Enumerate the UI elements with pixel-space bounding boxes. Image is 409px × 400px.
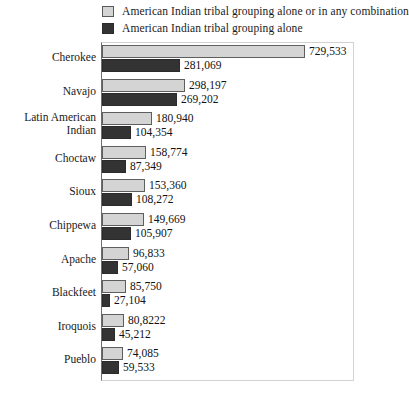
bar-value-label: 149,669 [148, 213, 185, 226]
bar-rows: Cherokee729,533281,069Navajo298,197269,2… [0, 42, 409, 378]
bar-alone: 281,069 [102, 59, 221, 72]
bar-alone: 108,272 [102, 193, 173, 206]
bar-combination: 298,197 [102, 79, 226, 92]
category-label: Navajo [0, 85, 96, 98]
bar-group: Sioux153,360108,272 [0, 176, 409, 210]
category-label: Blackfeet [0, 286, 96, 299]
legend-item-alone: American Indian tribal grouping alone [102, 21, 404, 36]
bar-value-label: 104,354 [135, 126, 172, 139]
bar-value-label: 108,272 [136, 193, 173, 206]
legend-swatch-dark-icon [102, 23, 114, 34]
bar-group: Chippewa149,669105,907 [0, 210, 409, 244]
bar-rect [102, 361, 119, 374]
bar-alone: 59,533 [102, 361, 155, 374]
bar-rect [102, 126, 131, 139]
bar-value-label: 281,069 [184, 59, 221, 72]
bar-value-label: 105,907 [135, 227, 172, 240]
bar-alone: 87,349 [102, 160, 162, 173]
bar-alone: 27,104 [102, 294, 146, 307]
bar-rect [102, 59, 180, 72]
bar-rect [102, 179, 145, 192]
bar-value-label: 96,833 [133, 247, 165, 260]
bar-rect [102, 193, 132, 206]
category-label: Sioux [0, 185, 96, 198]
bar-rect [102, 213, 144, 226]
bar-rect [102, 45, 305, 58]
bar-value-label: 74,085 [127, 347, 159, 360]
bar-combination: 180,940 [102, 112, 193, 125]
bar-rect [102, 79, 185, 92]
bar-value-label: 59,533 [123, 361, 155, 374]
bar-chart: American Indian tribal grouping alone or… [0, 0, 409, 400]
bar-group: Choctaw158,77487,349 [0, 143, 409, 177]
bar-rect [102, 227, 131, 240]
bar-rect [102, 146, 146, 159]
bar-rect [102, 347, 123, 360]
bar-combination: 85,750 [102, 280, 162, 293]
bar-value-label: 158,774 [150, 146, 187, 159]
category-label: Choctaw [0, 152, 96, 165]
bar-rect [102, 328, 115, 341]
legend-label-alone: American Indian tribal grouping alone [122, 22, 303, 35]
bar-rect [102, 93, 177, 106]
bar-combination: 80,8222 [102, 314, 165, 327]
bar-group: Latin American Indian180,940104,354 [0, 109, 409, 143]
bar-combination: 153,360 [102, 179, 186, 192]
bar-alone: 57,060 [102, 261, 154, 274]
bar-alone: 269,202 [102, 93, 218, 106]
bar-value-label: 153,360 [149, 179, 186, 192]
bar-value-label: 729,533 [309, 45, 346, 58]
category-label: Iroquois [0, 320, 96, 333]
bar-rect [102, 247, 129, 260]
bar-rect [102, 112, 152, 125]
bar-alone: 104,354 [102, 126, 172, 139]
bar-alone: 105,907 [102, 227, 172, 240]
bar-value-label: 27,104 [114, 294, 146, 307]
bar-combination: 729,533 [102, 45, 346, 58]
bar-alone: 45,212 [102, 328, 151, 341]
bar-value-label: 80,8222 [128, 314, 165, 327]
bar-group: Pueblo74,08559,533 [0, 344, 409, 378]
chart-legend: American Indian tribal grouping alone or… [102, 4, 404, 38]
bar-combination: 74,085 [102, 347, 159, 360]
bar-value-label: 298,197 [189, 79, 226, 92]
category-label: Chippewa [0, 219, 96, 232]
bar-group: Navajo298,197269,202 [0, 76, 409, 110]
legend-item-combination: American Indian tribal grouping alone or… [102, 4, 404, 19]
bar-value-label: 180,940 [156, 112, 193, 125]
category-label: Cherokee [0, 51, 96, 64]
bar-combination: 149,669 [102, 213, 185, 226]
bar-group: Apache96,83357,060 [0, 244, 409, 278]
category-label: Latin American Indian [0, 111, 96, 137]
bar-rect [102, 160, 126, 173]
bar-value-label: 87,349 [130, 160, 162, 173]
bar-value-label: 45,212 [119, 328, 151, 341]
bar-combination: 158,774 [102, 146, 187, 159]
category-label: Pueblo [0, 353, 96, 366]
bar-rect [102, 261, 118, 274]
bar-value-label: 57,060 [122, 261, 154, 274]
legend-swatch-light-icon [102, 6, 114, 17]
bar-combination: 96,833 [102, 247, 165, 260]
bar-rect [102, 314, 124, 327]
bar-group: Iroquois80,822245,212 [0, 311, 409, 345]
bar-rect [102, 280, 126, 293]
bar-value-label: 85,750 [130, 280, 162, 293]
bar-group: Blackfeet85,75027,104 [0, 277, 409, 311]
bar-group: Cherokee729,533281,069 [0, 42, 409, 76]
category-label: Apache [0, 253, 96, 266]
bar-value-label: 269,202 [181, 93, 218, 106]
legend-label-combination: American Indian tribal grouping alone or… [122, 5, 409, 18]
bar-rect [102, 294, 110, 307]
